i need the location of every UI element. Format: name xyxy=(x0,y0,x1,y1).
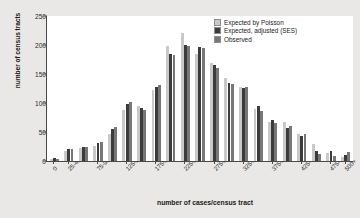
bar xyxy=(260,111,263,161)
bar xyxy=(143,110,146,161)
legend-label: Observed xyxy=(224,36,252,43)
legend-swatch xyxy=(214,19,221,26)
bar xyxy=(216,68,219,161)
chart-figure: number of census tracts number of cases/… xyxy=(0,0,360,218)
bar-group xyxy=(309,16,324,161)
legend-label: Expected by Poisson xyxy=(224,19,284,26)
bar-group xyxy=(76,16,91,161)
bar xyxy=(100,142,103,161)
bar xyxy=(333,156,336,161)
bar-group xyxy=(47,16,62,161)
bar-group xyxy=(324,16,339,161)
bar xyxy=(202,48,205,161)
bar xyxy=(114,127,117,161)
bar-group xyxy=(338,16,353,161)
bar xyxy=(158,85,161,161)
bar-group xyxy=(120,16,135,161)
bar-group xyxy=(105,16,120,161)
plot-area xyxy=(46,16,353,162)
bar-group xyxy=(164,16,179,161)
legend-item: Expected by Poisson xyxy=(214,19,297,26)
bar-group xyxy=(62,16,77,161)
bar xyxy=(187,46,190,161)
bar xyxy=(274,123,277,161)
bar xyxy=(318,154,321,161)
legend-label: Expected, adjusted (SES) xyxy=(224,27,297,34)
bar-group xyxy=(178,16,193,161)
bar-group xyxy=(134,16,149,161)
bar xyxy=(129,102,132,161)
bar xyxy=(173,55,176,161)
x-axis-title: number of cases/census tract xyxy=(60,199,350,206)
bar xyxy=(71,149,74,161)
bar-group xyxy=(149,16,164,161)
legend-swatch xyxy=(214,36,221,43)
bar xyxy=(347,152,350,161)
legend-swatch xyxy=(214,27,221,34)
bar-group xyxy=(91,16,106,161)
legend-item: Expected, adjusted (SES) xyxy=(214,27,297,34)
bar xyxy=(231,84,234,161)
bar xyxy=(304,134,307,161)
bar xyxy=(289,126,292,161)
chart-legend: Expected by PoissonExpected, adjusted (S… xyxy=(214,19,297,43)
legend-item: Observed xyxy=(214,36,297,43)
bar xyxy=(85,147,88,162)
bar-series-container xyxy=(47,16,353,161)
x-tick-label: 0 xyxy=(51,165,58,172)
bar-group xyxy=(193,16,208,161)
bar xyxy=(56,159,59,161)
bar xyxy=(245,87,248,161)
